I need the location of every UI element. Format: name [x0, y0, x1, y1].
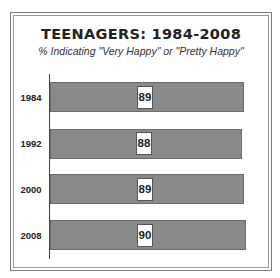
value-label-2000: 89 — [137, 178, 153, 201]
category-label-1984: 1984 — [18, 92, 44, 103]
value-label-2008: 90 — [137, 224, 153, 247]
category-label-2008: 2008 — [18, 230, 44, 241]
value-label-1984: 89 — [137, 86, 153, 109]
chart-subtitle: % Indicating "Very Happy" or "Pretty Hap… — [13, 45, 269, 57]
chart-title: TEENAGERS: 1984-2008 — [13, 26, 269, 42]
category-label-1992: 1992 — [18, 138, 44, 149]
category-label-2000: 2000 — [18, 184, 44, 195]
value-label-1992: 88 — [136, 132, 152, 155]
